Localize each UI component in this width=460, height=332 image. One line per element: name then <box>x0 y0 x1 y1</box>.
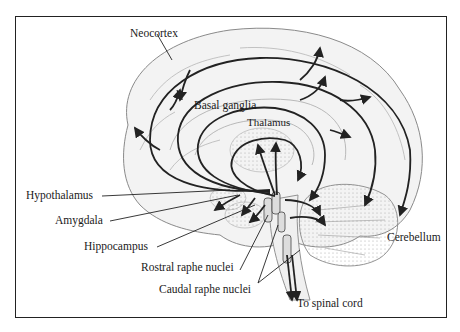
label-amygdala: Amygdala <box>55 215 103 227</box>
label-neocortex: Neocortex <box>130 28 178 40</box>
label-to-spinal-cord: To spinal cord <box>297 298 363 310</box>
label-hippocampus: Hippocampus <box>84 241 148 253</box>
label-cerebellum: Cerebellum <box>387 232 441 244</box>
label-thalamus: Thalamus <box>247 117 290 128</box>
label-basal-ganglia: Basal ganglia <box>194 100 256 112</box>
label-hypothalamus: Hypothalamus <box>26 190 93 202</box>
label-caudal-raphe-nuclei: Caudal raphe nuclei <box>159 284 251 296</box>
brain-outline <box>124 28 423 300</box>
label-rostral-raphe-nuclei: Rostral raphe nuclei <box>141 262 234 274</box>
